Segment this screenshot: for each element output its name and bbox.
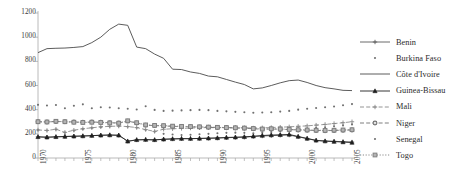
chart-legend: BeninBurkina FasoCôte d'IvoireGuinea-Bis… — [358, 34, 469, 164]
legend-key-benin — [358, 34, 392, 50]
legend-key-niger — [358, 115, 392, 131]
legend-item-guinea-bissau[interactable]: Guinea-Bissau — [358, 83, 469, 99]
legend-label: Burkina Faso — [392, 54, 441, 63]
legend-key-senegal — [358, 131, 392, 147]
x-axis-tick-label: 1975 — [86, 149, 93, 164]
legend-label: Mali — [392, 102, 412, 111]
legend-key-mali — [358, 99, 392, 115]
legend-label: Benin — [392, 38, 416, 47]
x-axis-tick-label: 2000 — [310, 149, 317, 164]
legend-item-burkina-faso[interactable]: Burkina Faso — [358, 50, 469, 66]
x-axis-tick-label: 1985 — [176, 149, 183, 164]
x-axis: 19701975198019851990199520002005 — [0, 0, 360, 191]
legend-label: Niger — [392, 119, 415, 128]
legend-label: Togo — [392, 151, 413, 160]
x-axis-tick-label: 1970 — [41, 149, 48, 164]
legend-key-cote-divoire — [358, 66, 392, 82]
x-axis-tick-label: 1990 — [221, 149, 228, 164]
legend-label: Côte d'Ivoire — [392, 70, 440, 79]
legend-item-niger[interactable]: Niger — [358, 115, 469, 131]
legend-label: Guinea-Bissau — [392, 86, 446, 95]
legend-item-mali[interactable]: Mali — [358, 99, 469, 115]
x-axis-tick-label: 1995 — [265, 149, 272, 164]
legend-item-senegal[interactable]: Senegal — [358, 131, 469, 147]
legend-item-c-te-d-ivoire[interactable]: Côte d'Ivoire — [358, 66, 469, 82]
legend-key-guinea-bissau — [358, 83, 392, 99]
legend-label: Senegal — [392, 135, 423, 144]
legend-key-burkina-faso — [358, 50, 392, 66]
legend-item-benin[interactable]: Benin — [358, 34, 469, 50]
chart-container: 020040060080010001200 197019751980198519… — [0, 0, 469, 191]
legend-item-togo[interactable]: Togo — [358, 147, 469, 163]
x-axis-tick-label: 1980 — [131, 149, 138, 164]
legend-key-togo — [358, 147, 392, 163]
